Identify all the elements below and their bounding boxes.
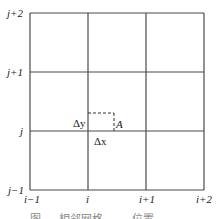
col-label-i-plus-2: i+2	[196, 193, 212, 205]
col-label-i-minus-1: i−1	[24, 193, 40, 205]
dx-label: Δx	[94, 135, 107, 147]
row-label-j-minus-1: j−1	[6, 184, 24, 196]
grid-diagram: j+2 j+1 j j−1 i−1 i i+1 i+2 Δy Δx A 图 … …	[0, 0, 219, 219]
row-label-j-plus-1: j+1	[5, 66, 23, 78]
point-a-label: A	[115, 118, 123, 130]
col-label-i: i	[86, 193, 89, 205]
dashed-offset-box	[88, 113, 114, 131]
figure-caption: 图 … 相邻网格 …… 位置	[30, 212, 154, 219]
dy-label: Δy	[73, 117, 86, 129]
row-label-j-plus-2: j+2	[5, 7, 23, 19]
row-label-j: j	[18, 125, 23, 137]
col-label-i-plus-1: i+1	[139, 193, 155, 205]
grid-lines	[30, 13, 204, 190]
